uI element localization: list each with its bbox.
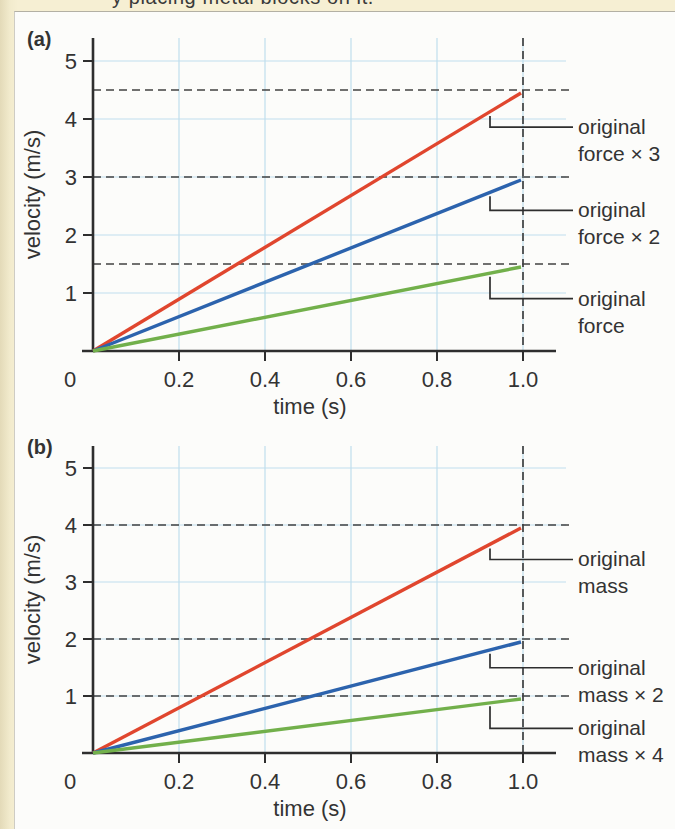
y-tick-label: 4 bbox=[65, 107, 77, 132]
series-callout-label: original bbox=[578, 656, 646, 679]
callout-connector bbox=[490, 277, 573, 299]
series-callout-label: force × 2 bbox=[578, 225, 660, 248]
panel-label: (b) bbox=[27, 436, 53, 458]
series-callout-label: original bbox=[578, 547, 646, 570]
series-line bbox=[93, 699, 521, 753]
chart-b: 1234500.20.40.60.81.0time (s)velocity (m… bbox=[20, 436, 664, 821]
callout-connector bbox=[490, 196, 573, 210]
series-line bbox=[93, 180, 521, 351]
y-axis-title: velocity (m/s) bbox=[20, 130, 45, 260]
x-tick-label: 0.2 bbox=[164, 367, 195, 392]
series-callout-label: force bbox=[578, 314, 625, 337]
x-tick-label: 1.0 bbox=[508, 367, 539, 392]
y-tick-label: 3 bbox=[65, 570, 77, 595]
y-tick-label: 1 bbox=[65, 281, 77, 306]
y-tick-label: 2 bbox=[65, 223, 77, 248]
callout-connector bbox=[490, 548, 573, 559]
x-axis-title: time (s) bbox=[273, 796, 346, 821]
series-line bbox=[93, 642, 521, 753]
series-callout-label: mass × 4 bbox=[578, 743, 664, 766]
chart-a: 1234500.20.40.60.81.0time (s)velocity (m… bbox=[20, 28, 660, 419]
panel-label: (a) bbox=[27, 28, 51, 50]
x-tick-label: 0.6 bbox=[336, 769, 367, 794]
series-callout-label: original bbox=[578, 198, 646, 221]
series-callout-label: original bbox=[578, 287, 646, 310]
x-tick-label: 0.4 bbox=[250, 367, 281, 392]
x-tick-label: 0.6 bbox=[336, 367, 367, 392]
x-tick-label: 0 bbox=[64, 367, 76, 392]
series-callout-label: mass bbox=[578, 574, 628, 597]
textbook-page: y placing metal blocks on it. 1234500.20… bbox=[0, 0, 675, 829]
series-callout-label: original bbox=[578, 716, 646, 739]
x-tick-label: 0.8 bbox=[422, 769, 453, 794]
y-tick-label: 5 bbox=[65, 456, 77, 481]
series-line bbox=[93, 93, 521, 351]
y-tick-label: 1 bbox=[65, 684, 77, 709]
x-tick-label: 0.4 bbox=[250, 769, 281, 794]
callout-connector bbox=[490, 116, 573, 127]
x-tick-label: 0.8 bbox=[422, 367, 453, 392]
callout-connector bbox=[490, 654, 573, 668]
x-axis-title: time (s) bbox=[273, 394, 346, 419]
y-tick-label: 2 bbox=[65, 627, 77, 652]
series-callout-label: force × 3 bbox=[578, 142, 660, 165]
y-axis-title: velocity (m/s) bbox=[20, 535, 45, 665]
series-line bbox=[93, 267, 521, 351]
y-tick-label: 4 bbox=[65, 513, 77, 538]
series-callout-label: original bbox=[578, 115, 646, 138]
x-tick-label: 1.0 bbox=[508, 769, 539, 794]
x-tick-label: 0.2 bbox=[164, 769, 195, 794]
y-tick-label: 5 bbox=[65, 49, 77, 74]
y-tick-label: 3 bbox=[65, 165, 77, 190]
series-callout-label: mass × 2 bbox=[578, 683, 664, 706]
callout-connector bbox=[490, 706, 573, 728]
x-tick-label: 0 bbox=[64, 769, 76, 794]
series-line bbox=[93, 528, 521, 753]
velocity-time-charts: 1234500.20.40.60.81.0time (s)velocity (m… bbox=[0, 0, 675, 829]
